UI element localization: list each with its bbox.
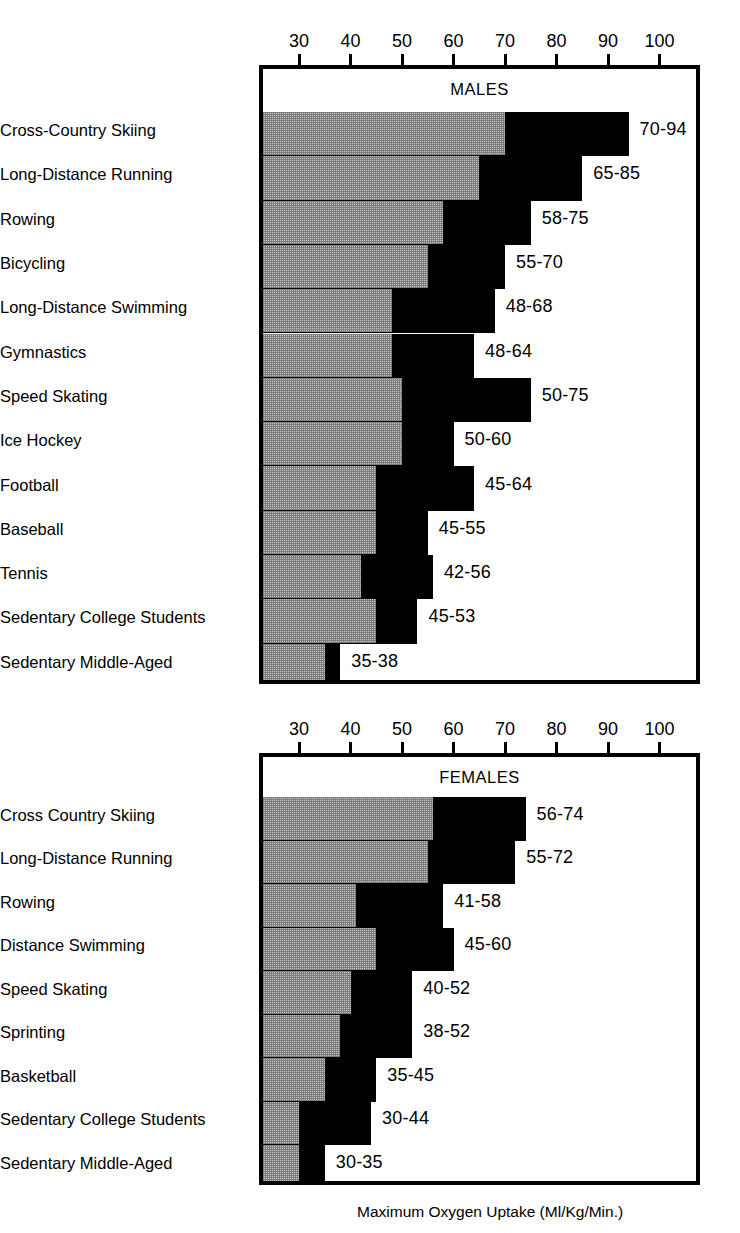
x-tick-label: 80	[546, 719, 566, 740]
x-tick	[349, 54, 352, 65]
bar-segment-high	[376, 511, 428, 555]
bar-value-label: 30-35	[336, 1152, 383, 1173]
bar-segment-low	[263, 841, 428, 885]
bar-segment-low	[263, 334, 392, 378]
bar-value-label: 48-64	[485, 341, 532, 362]
bar-value-label: 42-56	[444, 562, 491, 583]
females-plot-box: FEMALES	[259, 753, 700, 1185]
bar-segment-high	[361, 555, 433, 599]
bar-segment-low	[263, 644, 325, 684]
bar-row[interactable]	[263, 971, 696, 1015]
bar-segment-high	[505, 112, 629, 156]
x-tick	[298, 54, 301, 65]
x-tick-label: 50	[392, 31, 412, 52]
bar-segment-low	[263, 555, 361, 599]
bar-value-label: 50-75	[542, 385, 589, 406]
bar-segment-high	[376, 466, 474, 510]
bar-row[interactable]	[263, 644, 696, 684]
bar-segment-low	[263, 289, 392, 333]
bar-row[interactable]	[263, 334, 696, 378]
males-panel: 30405060708090100 MALES Cross-Country Sk…	[0, 0, 740, 700]
bar-row[interactable]	[263, 797, 696, 841]
bar-segment-high	[479, 156, 582, 200]
x-tick	[452, 742, 455, 753]
bar-segment-low	[263, 156, 479, 200]
bar-segment-high	[428, 245, 505, 289]
bar-segment-low	[263, 928, 376, 972]
bar-value-label: 48-68	[506, 296, 553, 317]
bar-row[interactable]	[263, 466, 696, 510]
bar-value-label: 50-60	[465, 429, 512, 450]
bar-segment-low	[263, 884, 356, 928]
males-category-labels: Cross-Country SkiingLong-Distance Runnin…	[0, 0, 249, 700]
bar-segment-low	[263, 1102, 299, 1146]
bar-segment-high	[325, 1058, 377, 1102]
females-category-labels: Cross Country SkiingLong-Distance Runnin…	[0, 713, 249, 1193]
x-tick	[401, 54, 404, 65]
bar-row[interactable]	[263, 1015, 696, 1059]
bar-value-label: 45-55	[439, 518, 486, 539]
females-chart-title: FEMALES	[263, 768, 696, 787]
bar-segment-high	[402, 422, 454, 466]
bar-row[interactable]	[263, 1102, 696, 1146]
x-tick-label: 60	[443, 31, 463, 52]
bar-segment-low	[263, 511, 376, 555]
x-tick	[607, 742, 610, 753]
bar-segment-low	[263, 201, 443, 245]
x-tick	[349, 742, 352, 753]
bar-row[interactable]	[263, 201, 696, 245]
bar-segment-low	[263, 1058, 325, 1102]
bar-segment-high	[376, 599, 417, 643]
bar-segment-low	[263, 1145, 299, 1185]
x-tick-label: 80	[546, 31, 566, 52]
x-tick-label: 90	[598, 719, 618, 740]
bar-row[interactable]	[263, 245, 696, 289]
bar-segment-high	[340, 1015, 412, 1059]
bar-segment-high	[299, 1102, 371, 1146]
bar-row[interactable]	[263, 289, 696, 333]
bar-segment-high	[392, 289, 495, 333]
males-x-axis: 30405060708090100	[259, 25, 700, 65]
bar-segment-high	[402, 378, 531, 422]
x-tick-label: 40	[340, 719, 360, 740]
x-tick-label: 30	[289, 719, 309, 740]
x-tick-label: 40	[340, 31, 360, 52]
bar-value-label: 55-70	[516, 252, 563, 273]
bar-row[interactable]	[263, 112, 696, 156]
bar-row[interactable]	[263, 599, 696, 643]
x-tick-label: 100	[644, 719, 674, 740]
males-chart-title: MALES	[263, 80, 696, 99]
x-tick	[452, 54, 455, 65]
x-tick	[504, 54, 507, 65]
bar-value-label: 41-58	[454, 891, 501, 912]
x-tick-label: 90	[598, 31, 618, 52]
x-tick-label: 100	[644, 31, 674, 52]
bar-row[interactable]	[263, 841, 696, 885]
x-tick	[658, 54, 661, 65]
bar-segment-low	[263, 422, 402, 466]
bar-segment-low	[263, 971, 351, 1015]
females-panel: 30405060708090100 FEMALES Cross Country …	[0, 713, 740, 1193]
bar-value-label: 58-75	[542, 208, 589, 229]
bar-segment-high	[392, 334, 474, 378]
bar-segment-high	[443, 201, 531, 245]
bar-value-label: 45-64	[485, 474, 532, 495]
x-tick	[401, 742, 404, 753]
bar-value-label: 56-74	[537, 804, 584, 825]
x-tick	[298, 742, 301, 753]
bar-row[interactable]	[263, 378, 696, 422]
bar-segment-high	[433, 797, 526, 841]
bar-value-label: 40-52	[423, 978, 470, 999]
bar-segment-high	[356, 884, 444, 928]
bar-value-label: 38-52	[423, 1021, 470, 1042]
bar-segment-low	[263, 245, 428, 289]
bar-segment-high	[428, 841, 516, 885]
bar-segment-low	[263, 1015, 340, 1059]
bar-row[interactable]	[263, 1058, 696, 1102]
bar-segment-low	[263, 599, 376, 643]
x-tick-label: 30	[289, 31, 309, 52]
bar-segment-low	[263, 797, 433, 841]
bar-row[interactable]	[263, 1145, 696, 1185]
x-tick	[504, 742, 507, 753]
bar-segment-high	[325, 644, 340, 684]
